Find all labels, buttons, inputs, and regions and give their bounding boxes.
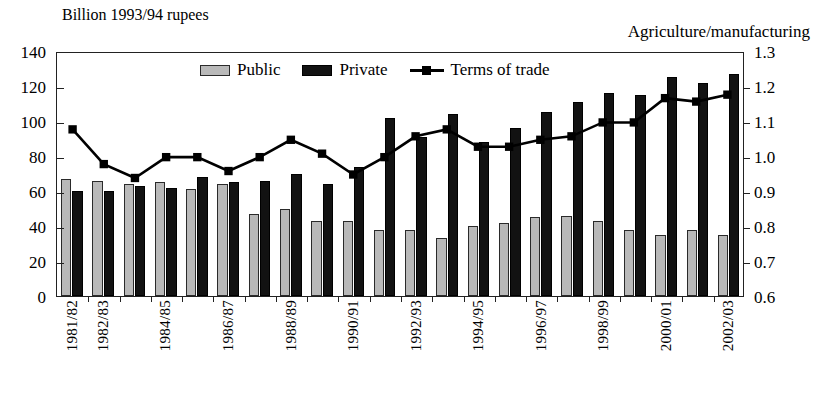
x-axis-tick-label: 1981/82 bbox=[64, 300, 81, 351]
x-axis-labels: 1981/821982/831984/851986/871988/891990/… bbox=[56, 300, 744, 405]
y-axis-left-tick-label: 140 bbox=[21, 44, 47, 61]
y-axis-right-tick-label: 0.6 bbox=[754, 289, 775, 306]
chart-legend: Public Private Terms of trade bbox=[200, 60, 550, 80]
terms-of-trade-marker bbox=[162, 153, 170, 161]
x-axis-tick-label: 1982/83 bbox=[95, 300, 112, 351]
y-axis-right-tick bbox=[743, 228, 750, 229]
chart-container: Billion 1993/94 rupees Agriculture/manuf… bbox=[0, 0, 820, 407]
y-axis-right: 0.60.70.80.91.01.11.21.3 bbox=[750, 52, 816, 297]
x-axis-tick-label: 1988/89 bbox=[283, 300, 300, 351]
terms-of-trade-line-layer bbox=[57, 53, 743, 296]
terms-of-trade-marker bbox=[224, 167, 232, 175]
terms-of-trade-marker bbox=[318, 150, 326, 158]
terms-of-trade-marker bbox=[380, 153, 388, 161]
terms-of-trade-marker bbox=[100, 160, 108, 168]
terms-of-trade-marker bbox=[474, 143, 482, 151]
terms-of-trade-marker bbox=[723, 90, 731, 98]
terms-of-trade-marker bbox=[630, 118, 638, 126]
x-axis-tick-label: 1986/87 bbox=[220, 300, 237, 351]
terms-of-trade-marker bbox=[505, 143, 513, 151]
terms-of-trade-marker bbox=[193, 153, 201, 161]
x-axis-tick-label: 1994/95 bbox=[470, 300, 487, 351]
y-axis-left-tick-label: 60 bbox=[29, 184, 46, 201]
legend-label-terms: Terms of trade bbox=[451, 60, 550, 80]
terms-line-marker-icon bbox=[410, 65, 444, 76]
terms-of-trade-marker bbox=[692, 97, 700, 105]
y-axis-left-tick-label: 80 bbox=[29, 149, 46, 166]
legend-label-private: Private bbox=[339, 60, 387, 80]
y-axis-left-tick bbox=[57, 123, 64, 124]
y-axis-left-tick bbox=[57, 228, 64, 229]
x-axis-tick-label: 1998/99 bbox=[595, 300, 612, 351]
x-axis-tick-label: 1984/85 bbox=[157, 300, 174, 351]
chart-left-axis-title: Billion 1993/94 rupees bbox=[62, 6, 209, 24]
terms-of-trade-marker bbox=[536, 136, 544, 144]
y-axis-left: 020406080100120140 bbox=[0, 52, 50, 297]
terms-of-trade-marker bbox=[287, 136, 295, 144]
y-axis-left-tick-label: 0 bbox=[38, 289, 47, 306]
terms-of-trade-marker bbox=[349, 170, 357, 178]
y-axis-right-tick bbox=[743, 123, 750, 124]
y-axis-right-tick bbox=[743, 263, 750, 264]
terms-of-trade-marker bbox=[255, 153, 263, 161]
public-swatch-icon bbox=[200, 65, 230, 76]
plot-area bbox=[56, 52, 744, 297]
terms-of-trade-marker bbox=[598, 118, 606, 126]
y-axis-right-tick bbox=[743, 193, 750, 194]
y-axis-right-tick-label: 0.9 bbox=[754, 184, 775, 201]
terms-of-trade-line bbox=[73, 95, 728, 178]
y-axis-right-tick bbox=[743, 158, 750, 159]
legend-label-public: Public bbox=[237, 60, 280, 80]
x-axis-tick-label: 2002/03 bbox=[720, 300, 737, 351]
x-axis-tick-label: 2000/01 bbox=[658, 300, 675, 351]
y-axis-left-tick bbox=[57, 88, 64, 89]
terms-of-trade-marker bbox=[443, 125, 451, 133]
legend-item-private: Private bbox=[302, 60, 387, 80]
terms-of-trade-marker bbox=[68, 125, 76, 133]
terms-of-trade-marker bbox=[567, 132, 575, 140]
y-axis-left-tick bbox=[57, 263, 64, 264]
private-swatch-icon bbox=[302, 65, 332, 76]
terms-of-trade-marker bbox=[661, 94, 669, 102]
y-axis-right-tick-label: 1.1 bbox=[754, 114, 775, 131]
y-axis-left-tick bbox=[57, 193, 64, 194]
x-axis-tick-label: 1992/93 bbox=[408, 300, 425, 351]
y-axis-right-tick-label: 0.7 bbox=[754, 254, 775, 271]
chart-right-axis-title: Agriculture/manufacturing bbox=[628, 22, 810, 42]
terms-of-trade-marker bbox=[131, 174, 139, 182]
y-axis-right-tick bbox=[743, 88, 750, 89]
y-axis-left-tick-label: 40 bbox=[29, 219, 46, 236]
x-axis-tick-label: 1996/97 bbox=[533, 300, 550, 351]
y-axis-right-tick-label: 1.0 bbox=[754, 149, 775, 166]
terms-of-trade-marker bbox=[411, 132, 419, 140]
y-axis-left-tick bbox=[57, 158, 64, 159]
x-axis-tick-label: 1990/91 bbox=[345, 300, 362, 351]
y-axis-right-tick-label: 1.2 bbox=[754, 79, 775, 96]
y-axis-right-tick-label: 1.3 bbox=[754, 44, 775, 61]
y-axis-right-tick-label: 0.8 bbox=[754, 219, 775, 236]
y-axis-left-tick-label: 120 bbox=[21, 79, 47, 96]
y-axis-left-tick-label: 100 bbox=[21, 114, 47, 131]
legend-item-public: Public bbox=[200, 60, 280, 80]
legend-item-terms-of-trade: Terms of trade bbox=[410, 60, 550, 80]
y-axis-left-tick-label: 20 bbox=[29, 254, 46, 271]
